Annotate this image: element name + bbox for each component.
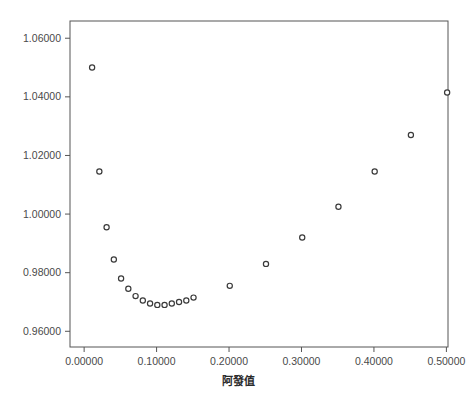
x-tick-label: 0.40000: [355, 355, 393, 367]
data-point: [336, 204, 341, 209]
data-point: [169, 301, 174, 306]
x-axis-title: 阿發值: [222, 374, 255, 388]
x-tick-label: 0.30000: [283, 355, 321, 367]
data-point: [300, 235, 305, 240]
data-point: [372, 169, 377, 174]
y-axis-tick-labels: 0.960000.980001.000001.020001.040001.060…: [23, 32, 61, 337]
y-axis-ticks: [65, 38, 70, 331]
data-points: [89, 65, 449, 308]
data-point: [133, 294, 138, 299]
y-tick-label: 0.96000: [23, 325, 61, 337]
x-axis-ticks: [84, 347, 446, 352]
data-point: [184, 298, 189, 303]
data-point: [140, 298, 145, 303]
y-tick-label: 0.98000: [23, 266, 61, 278]
plot-canvas: 0.000000.100000.200000.300000.400000.500…: [0, 0, 476, 406]
data-point: [155, 302, 160, 307]
scatter-plot-figure: 0.000000.100000.200000.300000.400000.500…: [0, 0, 476, 406]
data-point: [191, 295, 196, 300]
data-point: [162, 302, 167, 307]
x-tick-label: 0.50000: [427, 355, 465, 367]
data-point: [176, 299, 181, 304]
data-point: [126, 286, 131, 291]
x-tick-label: 0.00000: [65, 355, 103, 367]
data-point: [104, 225, 109, 230]
x-tick-label: 0.20000: [210, 355, 248, 367]
data-point: [97, 169, 102, 174]
x-axis-tick-labels: 0.000000.100000.200000.300000.400000.500…: [65, 355, 465, 367]
data-point: [118, 276, 123, 281]
data-point: [263, 261, 268, 266]
data-point: [147, 301, 152, 306]
y-tick-label: 1.00000: [23, 208, 61, 220]
y-tick-label: 1.02000: [23, 149, 61, 161]
data-point: [89, 65, 94, 70]
data-point: [408, 132, 413, 137]
data-point: [445, 90, 450, 95]
plot-frame: [70, 21, 448, 347]
y-tick-label: 1.04000: [23, 90, 61, 102]
data-point: [111, 257, 116, 262]
data-point: [227, 283, 232, 288]
y-tick-label: 1.06000: [23, 32, 61, 44]
x-tick-label: 0.10000: [138, 355, 176, 367]
